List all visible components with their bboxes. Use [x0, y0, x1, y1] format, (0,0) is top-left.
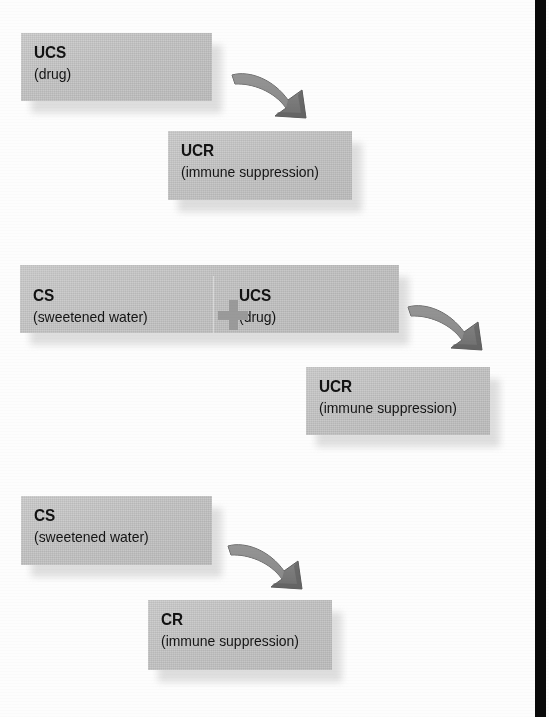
ucr-box-acronym: UCR	[181, 142, 340, 159]
ucs-box: UCS (drug)	[21, 33, 212, 101]
ucs-box-paired-detail: (drug)	[239, 309, 388, 325]
cs-box-paired-detail: (sweetened water)	[33, 309, 200, 325]
cs-box-paired-acronym: CS	[33, 287, 200, 304]
combo-seam-divider	[213, 276, 214, 333]
cs-ucs-combo-box: CS (sweetened water) UCS (drug)	[20, 265, 399, 333]
cr-box: CR (immune suppression)	[148, 600, 332, 670]
ucr-box: UCR (immune suppression)	[168, 131, 352, 200]
cs-box-paired: CS (sweetened water)	[20, 276, 213, 333]
page-gutter-bar	[535, 0, 546, 717]
arrow-cs-to-cr	[224, 537, 320, 599]
ucs-box-acronym: UCS	[34, 44, 200, 61]
cr-box-detail: (immune suppression)	[161, 633, 320, 649]
arrow-pair-to-ucr	[404, 298, 500, 360]
plus-icon	[218, 300, 248, 330]
cs-box-alone: CS (sweetened water)	[21, 496, 212, 565]
arrow-ucs-to-ucr	[228, 66, 324, 128]
ucr-box-paired: UCR (immune suppression)	[306, 367, 490, 435]
conditioning-diagram: UCS (drug) UCR (immune suppression) CS	[0, 0, 549, 717]
cs-box-alone-acronym: CS	[34, 507, 200, 524]
ucr-box-paired-detail: (immune suppression)	[319, 400, 478, 416]
ucr-box-paired-acronym: UCR	[319, 378, 478, 395]
ucs-box-paired-acronym: UCS	[239, 287, 388, 304]
ucr-box-detail: (immune suppression)	[181, 164, 340, 180]
cr-box-acronym: CR	[161, 611, 320, 628]
ucs-box-detail: (drug)	[34, 66, 200, 82]
cs-box-alone-detail: (sweetened water)	[34, 529, 200, 545]
